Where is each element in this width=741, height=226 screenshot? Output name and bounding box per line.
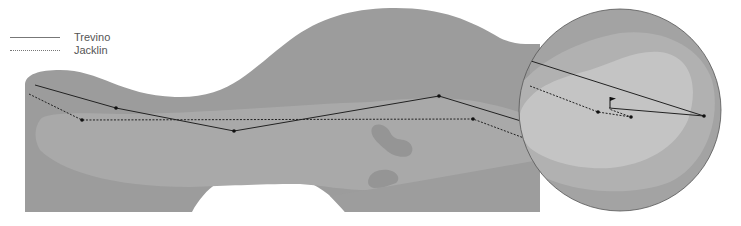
shot-marker	[232, 129, 236, 133]
legend-item-trevino: Trevino	[10, 31, 110, 44]
solid-line-swatch	[10, 37, 60, 38]
shot-marker	[702, 114, 706, 118]
legend-item-jacklin: Jacklin	[10, 44, 110, 57]
shot-marker	[114, 106, 118, 110]
golf-hole-diagram	[0, 0, 741, 226]
legend-label: Jacklin	[74, 44, 108, 57]
shot-marker	[471, 117, 475, 121]
shot-marker	[437, 94, 441, 98]
shot-marker	[629, 115, 633, 119]
shot-marker	[596, 110, 600, 114]
dotted-line-swatch	[10, 50, 60, 51]
shot-marker	[80, 118, 84, 122]
legend-label: Trevino	[74, 31, 110, 44]
legend: Trevino Jacklin	[10, 31, 110, 57]
